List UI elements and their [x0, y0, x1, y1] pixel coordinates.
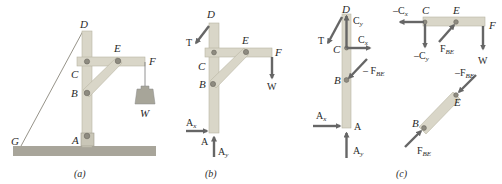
pin-b — [210, 81, 215, 86]
panel-c-member-acd: T Cy Cx – FBE Ax Ay D C B A — [313, 3, 385, 158]
force-fbe-label: FBE — [440, 43, 455, 56]
label-b: B — [334, 74, 341, 86]
force-cx-label: Cx — [358, 34, 369, 47]
force-t-arrow — [328, 17, 342, 43]
label-d: D — [206, 8, 215, 20]
panel-b: T W Ax Ay D E F C B A (b) — [186, 8, 282, 180]
label-c: C — [422, 4, 430, 16]
label-w: W — [140, 107, 150, 119]
frame-equilibrium-figure: D E F C B A G W (a) T W Ax Ay D E F C B … — [0, 0, 502, 184]
force-neg-cx-label: –Cx — [392, 5, 409, 18]
pin-e — [243, 49, 248, 54]
label-f: F — [488, 19, 496, 31]
force-ax-label: Ax — [186, 117, 197, 130]
label-a: A — [71, 134, 79, 146]
label-e: E — [113, 42, 121, 54]
label-b: B — [71, 87, 78, 99]
label-e: E — [453, 96, 461, 108]
caption-a: (a) — [74, 168, 86, 180]
panel-c-member-cf: –Cx –Cy FBE W C E F — [392, 4, 496, 66]
label-e: E — [241, 34, 249, 46]
pin-c — [84, 59, 89, 64]
force-w-label: W — [267, 81, 277, 92]
label-c: C — [198, 60, 206, 72]
ground — [13, 146, 156, 156]
label-b: B — [199, 78, 206, 90]
pin-b — [84, 90, 90, 96]
force-neg-fbe-label: – FBE — [362, 65, 385, 78]
label-f: F — [148, 55, 156, 67]
label-c: C — [71, 68, 79, 80]
label-d: D — [79, 18, 88, 30]
force-ay-label: Ay — [218, 146, 229, 159]
label-g: G — [11, 135, 19, 147]
pin-e — [454, 20, 459, 25]
label-a: A — [201, 136, 209, 147]
pin-e — [115, 58, 121, 64]
caption-c: (c) — [396, 168, 408, 180]
label-c: C — [333, 43, 341, 55]
pin-c — [212, 50, 217, 55]
panel-a: D E F C B A G W (a) — [11, 18, 156, 180]
panel-c-member-be: –FBE FBE E B (c) — [396, 67, 476, 180]
force-t-arrow — [196, 26, 209, 43]
caption-b: (b) — [205, 168, 217, 180]
force-t-label: T — [318, 35, 324, 46]
force-neg-cy-label: –Cy — [413, 50, 430, 63]
force-cy-label: Cy — [353, 15, 364, 28]
force-ax-label: Ax — [316, 110, 327, 123]
force-fbe-label: FBE — [417, 145, 432, 158]
pin-a — [84, 133, 90, 139]
pin-b — [422, 126, 427, 131]
force-neg-fbe-label: –FBE — [454, 67, 475, 80]
label-d: D — [341, 3, 350, 15]
force-ay-label: Ay — [353, 145, 364, 158]
force-fbe-arrow — [439, 25, 454, 42]
force-t-label: T — [186, 37, 192, 48]
force-w-label: W — [478, 55, 488, 66]
weight-w — [135, 86, 155, 104]
pin-b — [344, 78, 349, 83]
label-b: B — [412, 117, 419, 129]
label-f: F — [274, 46, 282, 58]
label-e: E — [452, 4, 460, 16]
label-a: A — [354, 121, 362, 132]
